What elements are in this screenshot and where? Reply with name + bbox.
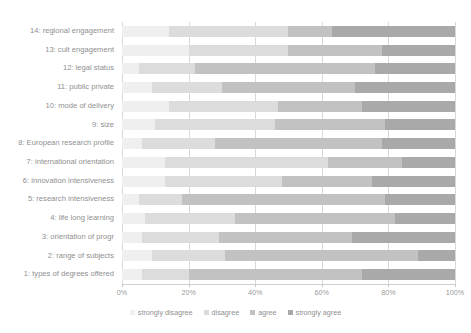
stacked-bar <box>122 194 455 205</box>
bar-segment-disagree <box>139 194 182 205</box>
bar-segment-strongly-agree <box>385 119 455 130</box>
bar-segment-strongly-disagree <box>122 176 165 187</box>
legend-swatch-icon <box>288 310 293 315</box>
bar-segment-strongly-disagree <box>122 138 142 149</box>
stacked-bar <box>122 119 455 130</box>
bar-segment-strongly-disagree <box>122 63 139 74</box>
legend-label: strongly agree <box>296 308 342 317</box>
bar-segment-strongly-agree <box>362 269 455 280</box>
bar-segment-agree <box>278 101 361 112</box>
bar-segment-strongly-disagree <box>122 232 142 243</box>
bar-segment-strongly-disagree <box>122 101 169 112</box>
x-tick-mark <box>455 284 456 287</box>
bar-segment-disagree <box>145 213 235 224</box>
bar-segment-agree <box>328 157 401 168</box>
legend-label: strongly disagree <box>138 308 193 317</box>
stacked-bar <box>122 82 455 93</box>
bar-segment-strongly-agree <box>372 176 455 187</box>
bar-row <box>122 41 455 60</box>
chart-legend: strongly disagreedisagreeagreestrongly a… <box>0 308 471 317</box>
bar-segment-agree <box>235 213 395 224</box>
bar-segment-strongly-disagree <box>122 269 142 280</box>
bar-segment-strongly-agree <box>382 45 455 56</box>
bar-segment-disagree <box>155 119 275 130</box>
bar-segment-disagree <box>142 232 219 243</box>
bar-segment-agree <box>275 119 385 130</box>
legend-label: agree <box>258 308 276 317</box>
category-label: 9: size <box>92 116 114 135</box>
legend-item[interactable]: disagree <box>204 308 240 317</box>
bar-segment-agree <box>225 250 418 261</box>
likert-stacked-bar-chart: 14: regional engagement13: cult engageme… <box>0 0 471 333</box>
bar-row <box>122 172 455 191</box>
bar-segment-strongly-agree <box>418 250 455 261</box>
stacked-bar <box>122 63 455 74</box>
x-tick-mark <box>255 284 256 287</box>
x-tick-label: 20% <box>181 288 195 297</box>
bar-segment-disagree <box>169 26 289 37</box>
bar-segment-strongly-disagree <box>122 82 152 93</box>
bar-segment-agree <box>288 26 331 37</box>
bar-segment-disagree <box>169 101 279 112</box>
category-label: 3: orientation of progr <box>42 228 114 247</box>
x-tick-label: 100% <box>446 288 464 297</box>
bar-segment-disagree <box>152 82 222 93</box>
category-label: 7: international orientation <box>27 153 114 172</box>
legend-swatch-icon <box>250 310 255 315</box>
bar-row <box>122 247 455 266</box>
category-label: 4: life long learning <box>50 209 114 228</box>
category-axis-labels: 14: regional engagement13: cult engageme… <box>0 22 118 284</box>
bar-segment-strongly-disagree <box>122 45 189 56</box>
stacked-bar <box>122 26 455 37</box>
legend-item[interactable]: agree <box>250 308 276 317</box>
bar-segment-disagree <box>142 269 189 280</box>
legend-item[interactable]: strongly disagree <box>130 308 193 317</box>
bar-row <box>122 209 455 228</box>
stacked-bar <box>122 138 455 149</box>
legend-swatch-icon <box>130 310 135 315</box>
bar-row <box>122 78 455 97</box>
category-label: 6: innovation intensiveness <box>23 172 114 191</box>
bar-row <box>122 190 455 209</box>
category-label: 10: mode of delivery <box>46 97 114 116</box>
plot-area <box>122 22 455 284</box>
x-tick-mark <box>189 284 190 287</box>
bar-segment-strongly-agree <box>355 82 455 93</box>
bar-segment-strongly-disagree <box>122 194 139 205</box>
bar-segment-strongly-agree <box>395 213 455 224</box>
bar-segment-strongly-disagree <box>122 250 152 261</box>
bar-segment-agree <box>222 82 355 93</box>
stacked-bar <box>122 269 455 280</box>
bar-row <box>122 116 455 135</box>
bar-segment-strongly-agree <box>362 101 455 112</box>
legend-label: disagree <box>212 308 240 317</box>
bar-segment-disagree <box>142 138 215 149</box>
stacked-bar <box>122 101 455 112</box>
category-label: 5: research intensiveness <box>28 190 114 209</box>
x-tick-label: 60% <box>315 288 329 297</box>
bar-segment-strongly-agree <box>402 157 455 168</box>
bar-segment-strongly-agree <box>332 26 455 37</box>
category-label: 12: legal status <box>63 59 114 78</box>
legend-swatch-icon <box>204 310 209 315</box>
x-tick-label: 40% <box>248 288 262 297</box>
stacked-bar <box>122 213 455 224</box>
bar-segment-disagree <box>189 45 289 56</box>
stacked-bar <box>122 176 455 187</box>
bar-row <box>122 153 455 172</box>
bar-row <box>122 97 455 116</box>
stacked-bar <box>122 232 455 243</box>
bar-rows <box>122 22 455 284</box>
bar-segment-strongly-disagree <box>122 119 155 130</box>
category-label: 1: types of degrees offered <box>24 265 114 284</box>
bar-segment-disagree <box>165 176 282 187</box>
gridline-100 <box>455 22 456 284</box>
bar-row <box>122 134 455 153</box>
bar-row <box>122 228 455 247</box>
bar-segment-strongly-disagree <box>122 157 165 168</box>
category-label: 13: cult engagement <box>45 41 114 60</box>
bar-segment-strongly-agree <box>375 63 455 74</box>
bar-segment-agree <box>219 232 352 243</box>
legend-item[interactable]: strongly agree <box>288 308 342 317</box>
bar-segment-disagree <box>165 157 328 168</box>
